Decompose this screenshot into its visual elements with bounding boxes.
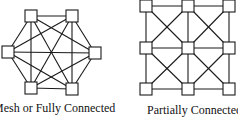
node-box <box>140 42 152 54</box>
node-box <box>25 82 37 94</box>
node-box <box>223 0 235 12</box>
mesh-edges <box>8 16 95 89</box>
node-box <box>2 46 14 58</box>
node-box <box>140 0 152 12</box>
node-box <box>66 83 78 95</box>
node-box <box>182 0 194 12</box>
node-box <box>66 10 78 22</box>
node-box <box>89 47 101 59</box>
node-box <box>223 42 235 54</box>
node-box <box>140 83 152 95</box>
node-box <box>182 83 194 95</box>
partial-caption: Partially Connected <box>147 103 238 118</box>
edge <box>8 52 95 53</box>
node-box <box>223 83 235 95</box>
node-box <box>182 42 194 54</box>
mesh-caption: Mesh or Fully Connected <box>0 101 115 116</box>
node-box <box>25 10 37 22</box>
